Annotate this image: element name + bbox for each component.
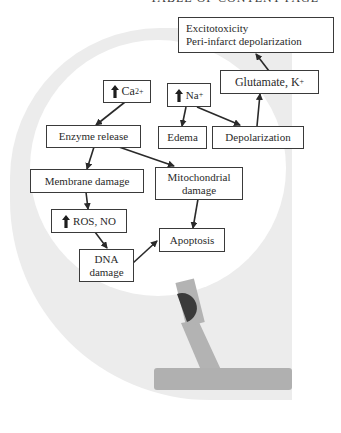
apoptosis-label: Apoptosis [170, 234, 215, 247]
sodium-label: Na [186, 89, 199, 102]
node-glutamate: Glutamate, K+ [220, 70, 319, 94]
node-mitochondrial-damage: Mitochondrial damage [155, 167, 243, 200]
glutamate-label: Glutamate, K [235, 76, 300, 89]
node-sodium: Na+ [167, 83, 211, 107]
node-calcium: Ca2+ [103, 80, 151, 103]
node-membrane-damage: Membrane damage [30, 169, 144, 193]
depolarization-label: Depolarization [225, 131, 290, 144]
up-arrow-icon [62, 215, 70, 228]
membrane-damage-label: Membrane damage [45, 175, 130, 188]
node-dna-damage: DNA damage [79, 249, 134, 282]
dna-damage-label: damage [89, 266, 123, 279]
peri-infarct-depolarization-label: Peri-infarct depolarization [186, 35, 302, 48]
dna-label: DNA [95, 253, 119, 266]
calcium-label: Ca [122, 85, 135, 98]
ros-no-label: ROS, NO [73, 215, 116, 228]
node-depolarization: Depolarization [212, 126, 304, 149]
up-arrow-icon [111, 85, 119, 98]
node-edema: Edema [158, 126, 207, 149]
node-apoptosis: Apoptosis [159, 228, 225, 252]
mitochondrial-damage-label: damage [182, 184, 216, 197]
excitotoxicity-label: Excitotoxicity [186, 22, 248, 35]
node-ros-no: ROS, NO [51, 209, 127, 233]
node-enzyme-release: Enzyme release [46, 125, 141, 148]
page-header-fragment: TABLE OF CONTENT PAGE [150, 0, 341, 5]
edema-label: Edema [167, 131, 198, 144]
mitochondrial-label: Mitochondrial [168, 171, 231, 184]
node-excitotoxicity: Excitotoxicity Peri-infarct depolarizati… [178, 17, 334, 53]
enzyme-release-label: Enzyme release [59, 130, 128, 143]
stand-base [154, 368, 292, 390]
up-arrow-icon [175, 89, 183, 102]
